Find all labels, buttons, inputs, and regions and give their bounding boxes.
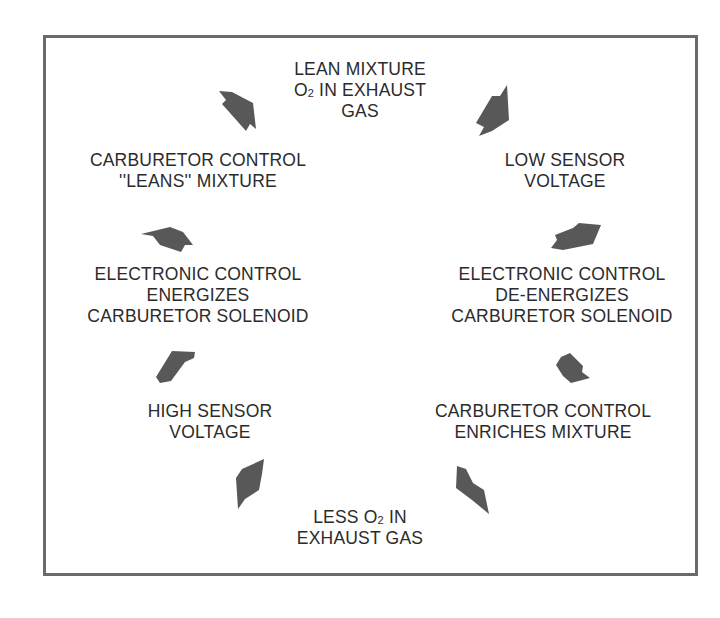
node-line: GAS — [294, 101, 426, 122]
node-carburetor-control-enriches: CARBURETOR CONTROL ENRICHES MIXTURE — [435, 401, 651, 443]
arrow-energize-to-leans-icon — [141, 227, 193, 252]
node-electronic-control-de-energizes: ELECTRONIC CONTROL DE-ENERGIZES CARBURET… — [451, 264, 672, 327]
node-line: CARBURETOR CONTROL — [90, 150, 306, 171]
arrow-low-to-deenergize-icon — [551, 223, 601, 250]
node-line: ENRICHES MIXTURE — [435, 422, 651, 443]
node-line: LOW SENSOR — [505, 150, 626, 171]
node-line: ''LEANS'' MIXTURE — [90, 171, 306, 192]
node-less-o2: LESS O2 IN EXHAUST GAS — [297, 507, 423, 549]
node-carburetor-control-leans: CARBURETOR CONTROL ''LEANS'' MIXTURE — [90, 150, 306, 192]
node-line: HIGH SENSOR — [148, 401, 273, 422]
arrow-leans-to-lean-icon — [219, 91, 256, 131]
node-line: ELECTRONIC CONTROL — [451, 264, 672, 285]
text-o: O — [294, 80, 308, 100]
arrow-enrich-to-less-icon — [456, 466, 489, 514]
node-line: O2 IN EXHAUST — [294, 80, 426, 101]
node-line: VOLTAGE — [148, 422, 273, 443]
text-in-exhaust: IN EXHAUST — [314, 80, 426, 100]
node-line: CARBURETOR CONTROL — [435, 401, 651, 422]
node-electronic-control-energizes: ELECTRONIC CONTROL ENERGIZES CARBURETOR … — [87, 264, 308, 327]
node-line: ELECTRONIC CONTROL — [87, 264, 308, 285]
node-lean-mixture: LEAN MIXTURE O2 IN EXHAUST GAS — [294, 59, 426, 122]
arrow-deenergize-to-enrich-icon — [556, 353, 590, 383]
arrow-lean-to-low-icon — [476, 85, 509, 136]
node-high-sensor-voltage: HIGH SENSOR VOLTAGE — [148, 401, 273, 443]
node-line: VOLTAGE — [505, 171, 626, 192]
node-line: ENERGIZES — [87, 285, 308, 306]
arrow-high-to-energize-icon — [156, 351, 195, 383]
text-in: IN — [384, 507, 407, 527]
text-less-o: LESS O — [313, 507, 377, 527]
node-line: LESS O2 IN — [297, 507, 423, 528]
arrow-less-to-high-icon — [236, 459, 264, 509]
node-line: CARBURETOR SOLENOID — [87, 306, 308, 327]
node-line: CARBURETOR SOLENOID — [451, 306, 672, 327]
node-line: DE-ENERGIZES — [451, 285, 672, 306]
node-low-sensor-voltage: LOW SENSOR VOLTAGE — [505, 150, 626, 192]
node-line: LEAN MIXTURE — [294, 59, 426, 80]
node-line: EXHAUST GAS — [297, 528, 423, 549]
